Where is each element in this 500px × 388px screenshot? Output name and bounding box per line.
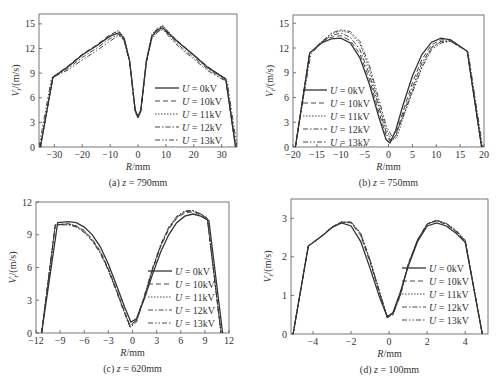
legend-label: U = 13kV [330, 137, 371, 148]
subplot-d: −4−20240123R/mmVt/(m/s)(d) z = 100mmU = … [262, 199, 488, 376]
y-tick-label: 0 [282, 329, 287, 340]
legend-label: U = 0kV [175, 266, 211, 277]
x-tick-label: 0 [386, 149, 391, 160]
legend-label: U = 10kV [182, 96, 223, 107]
x-tick-label: 30 [217, 149, 227, 160]
series-line-u-13kv [295, 30, 482, 147]
y-tick-label: 6 [284, 92, 289, 103]
x-tick-label: 10 [431, 149, 441, 160]
x-tick-label: 3 [154, 335, 159, 346]
y-axis-label: Vt/(m/s) [262, 251, 275, 283]
plot-frame [293, 15, 484, 147]
x-axis-label: R/mm [375, 161, 401, 172]
x-axis-label: R/mm [119, 347, 145, 358]
legend-label: U = 13kV [429, 315, 470, 326]
x-tick-label: −15 [309, 149, 325, 160]
x-tick-label: 0 [130, 335, 135, 346]
y-tick-label: 6 [27, 262, 32, 273]
y-tick-label: 9 [27, 229, 32, 240]
y-tick-label: 0 [27, 328, 32, 339]
legend: U = 0kVU = 10kVU = 11kVU = 12kVU = 13kV [155, 83, 223, 146]
subplot-a: −30−20−10010203003691215R/mmVt/(m/s)(a) … [10, 14, 237, 189]
subplot-caption: (b) z = 750mm [359, 177, 418, 189]
series-line-u-0kv [295, 38, 481, 147]
legend: U = 0kVU = 10kVU = 11kVU = 12kVU = 13kV [148, 266, 216, 329]
x-tick-label: 2 [425, 336, 430, 347]
x-tick-label: 15 [455, 149, 465, 160]
y-tick-label: 1 [282, 290, 287, 301]
legend-label: U = 13kV [182, 135, 223, 146]
legend-label: U = 0kV [182, 83, 218, 94]
series-line-u-10kv [295, 36, 481, 147]
x-tick-label: 10 [161, 149, 171, 160]
x-axis-label: R/mm [125, 161, 151, 172]
legend: U = 0kVU = 10kVU = 11kVU = 12kVU = 13kV [402, 263, 470, 326]
x-axis-label: R/mm [376, 348, 402, 359]
x-tick-label: 5 [410, 149, 415, 160]
subplot-caption: (c) z = 620mm [103, 363, 162, 375]
x-tick-label: −10 [102, 149, 118, 160]
y-tick-label: 0 [284, 142, 289, 153]
y-tick-label: 3 [27, 295, 32, 306]
x-tick-label: 0 [136, 149, 141, 160]
legend-label: U = 0kV [429, 263, 465, 274]
legend-label: U = 12kV [182, 122, 223, 133]
subplot-caption: (d) z = 100mm [360, 364, 419, 376]
subplot-caption: (a) z = 790mm [109, 177, 168, 189]
y-tick-label: 2 [282, 251, 287, 262]
x-tick-label: 12 [224, 335, 234, 346]
y-tick-label: 15 [25, 18, 35, 29]
legend-label: U = 11kV [182, 109, 223, 120]
legend-label: U = 12kV [429, 302, 470, 313]
x-tick-label: 4 [463, 336, 468, 347]
y-tick-label: 12 [279, 43, 289, 54]
legend-label: U = 11kV [429, 289, 470, 300]
y-tick-label: 3 [284, 117, 289, 128]
subplot-b: −20−15−10−50510152003691215R/mmVt/(m/s)(… [264, 15, 489, 189]
legend-label: U = 11kV [175, 292, 216, 303]
legend-label: U = 11kV [330, 111, 371, 122]
legend-label: U = 12kV [330, 124, 371, 135]
y-tick-label: 0 [30, 142, 35, 153]
y-tick-label: 9 [30, 68, 35, 79]
y-tick-label: 12 [22, 197, 32, 208]
x-tick-label: 20 [479, 149, 489, 160]
y-axis-label: Vt/(m/s) [264, 65, 277, 97]
x-tick-label: −3 [103, 335, 114, 346]
legend: U = 0kVU = 10kVU = 11kVU = 12kVU = 13kV [303, 85, 371, 148]
x-tick-label: 20 [189, 149, 199, 160]
legend-label: U = 0kV [330, 85, 366, 96]
y-tick-label: 3 [30, 117, 35, 128]
legend-label: U = 10kV [330, 98, 371, 109]
subplot-c: −12−9−6−3036912036912R/mmVt/(m/s)(c) z =… [7, 197, 234, 376]
legend-label: U = 13kV [175, 318, 216, 329]
y-axis-label: Vt/(m/s) [7, 252, 20, 284]
y-tick-label: 6 [30, 92, 35, 103]
x-tick-label: 9 [202, 335, 207, 346]
x-tick-label: 6 [178, 335, 183, 346]
figure-canvas: −30−20−10010203003691215R/mmVt/(m/s)(a) … [0, 0, 500, 388]
x-tick-label: −2 [346, 336, 357, 347]
x-tick-label: −4 [308, 336, 319, 347]
x-tick-label: 0 [387, 336, 392, 347]
x-tick-label: −6 [79, 335, 90, 346]
x-tick-label: −30 [47, 149, 63, 160]
legend-label: U = 12kV [175, 305, 216, 316]
legend-label: U = 10kV [175, 279, 216, 290]
y-tick-label: 9 [284, 67, 289, 78]
y-tick-label: 15 [279, 18, 289, 29]
x-tick-label: −9 [55, 335, 66, 346]
x-tick-label: −20 [74, 149, 90, 160]
x-tick-label: −5 [359, 149, 370, 160]
y-tick-label: 3 [282, 213, 287, 224]
legend-label: U = 10kV [429, 276, 470, 287]
x-tick-label: −10 [333, 149, 349, 160]
y-tick-label: 12 [25, 43, 35, 54]
y-axis-label: Vt/(m/s) [10, 65, 23, 97]
